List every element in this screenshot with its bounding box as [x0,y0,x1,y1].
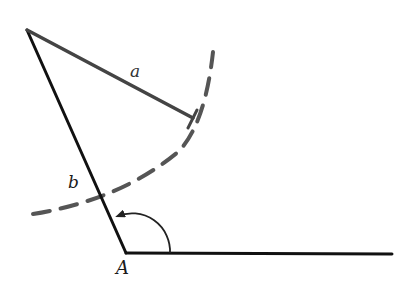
side-a-segment [27,30,193,118]
label-side-b: b [68,174,79,191]
label-vertex-A: A [116,259,129,277]
segment-a-end-tick [188,110,197,128]
base-ray [126,253,392,254]
geometry-diagram [0,0,416,295]
dashed-arc [33,52,213,214]
side-b-line [27,30,126,253]
label-side-a: a [130,63,140,80]
angle-arc-icon [118,213,170,253]
